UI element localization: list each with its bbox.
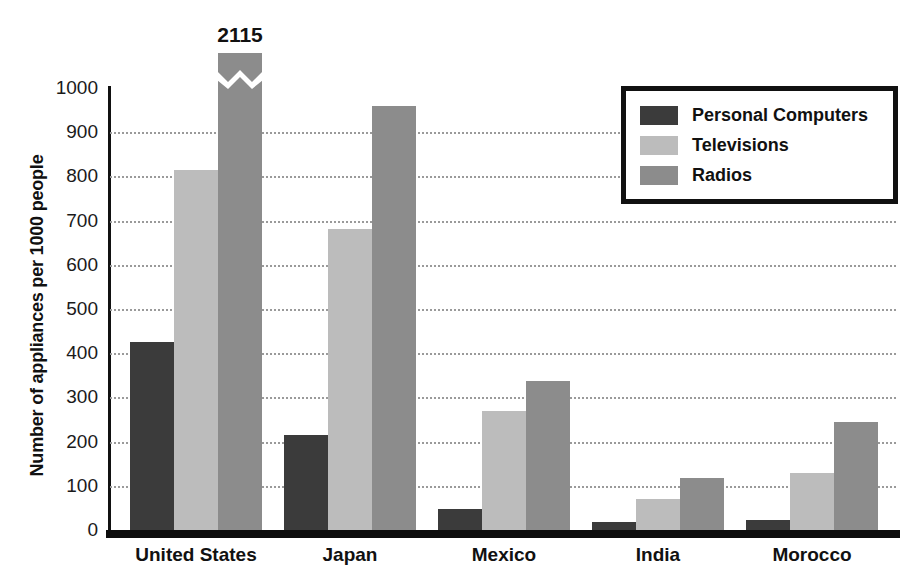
bar [790,473,834,530]
bar [438,509,482,530]
legend: Personal ComputersTelevisionsRadios [621,86,898,204]
y-axis-tick-label: 1000 [56,77,98,99]
bar-group [284,88,416,530]
y-axis-tick-label: 600 [66,254,98,276]
bar: 2115 [218,53,262,530]
legend-swatch [640,106,678,125]
legend-item: Televisions [640,130,881,160]
y-axis-tick-label: 500 [66,298,98,320]
legend-swatch [640,136,678,155]
bar [636,499,680,530]
y-axis-tick-label: 800 [66,165,98,187]
bar [174,170,218,530]
x-axis-baseline [106,530,900,538]
bar-value-label: 2115 [217,23,263,47]
y-axis-tick-label: 700 [66,210,98,232]
y-axis-tick-label: 100 [66,475,98,497]
bar [746,520,790,530]
y-axis-tick-label: 200 [66,431,98,453]
bar [680,478,724,530]
bar-group: 2115 [130,88,262,530]
legend-item: Personal Computers [640,100,881,130]
bar [482,411,526,530]
bar [526,381,570,530]
bar [592,522,636,530]
bar [372,106,416,530]
legend-item: Radios [640,160,881,190]
bar [834,422,878,530]
axis-break-zigzag-icon [217,67,263,89]
y-axis-tick-label: 0 [87,519,98,541]
y-axis-title: Number of appliances per 1000 people [27,96,48,536]
legend-label: Radios [692,165,752,186]
y-axis-tick-label: 400 [66,342,98,364]
bar [130,342,174,530]
legend-label: Personal Computers [692,105,868,126]
legend-swatch [640,166,678,185]
y-axis-tick-label: 900 [66,121,98,143]
bar-chart: Number of appliances per 1000 people 010… [0,0,910,587]
bar [328,229,372,530]
bar [284,435,328,530]
y-axis-tick-label: 300 [66,386,98,408]
x-axis-label: Morocco [712,544,910,566]
legend-label: Televisions [692,135,789,156]
bar-group [438,88,570,530]
